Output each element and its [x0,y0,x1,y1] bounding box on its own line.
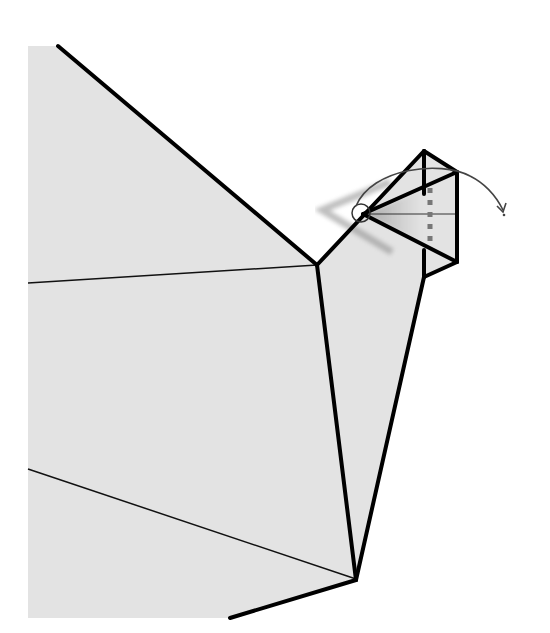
arrow-target-dot [503,214,506,217]
origami-diagram [0,0,550,633]
paper-body [28,46,457,618]
